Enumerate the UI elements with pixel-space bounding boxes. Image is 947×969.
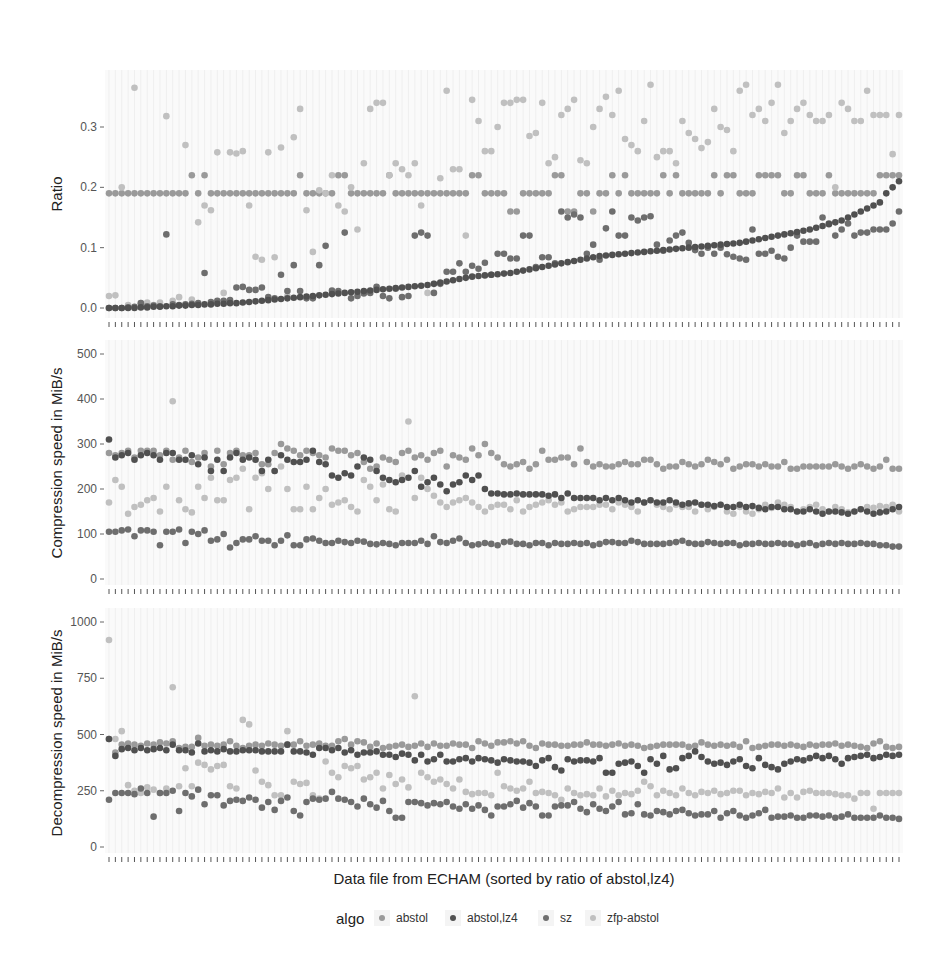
svg-text:750: 750: [77, 671, 97, 685]
legend-items: abstolabstol,lz4szzfp-abstol: [374, 910, 659, 926]
x-axis-label: Data file from ECHAM (sorted by ratio of…: [334, 870, 675, 887]
legend-item: sz: [538, 910, 572, 926]
svg-text:0.1: 0.1: [80, 241, 97, 255]
ratio-y-axis-label: Ratio: [48, 176, 65, 211]
ratio-panel: 0.00.10.20.3 Ratio: [48, 70, 903, 327]
svg-text:100: 100: [77, 527, 97, 541]
svg-text:0.2: 0.2: [80, 180, 97, 194]
svg-text:500: 500: [77, 347, 97, 361]
svg-text:0.3: 0.3: [80, 120, 97, 134]
svg-text:0: 0: [90, 572, 97, 586]
svg-text:0.0: 0.0: [80, 301, 97, 315]
legend: algo abstolabstol,lz4szzfp-abstol: [336, 910, 659, 927]
decompression-y-axis-label: Decompression speed in MiB/s: [48, 630, 65, 837]
figure: 0.00.10.20.3 Ratio 0100200300400500 Comp…: [0, 0, 947, 969]
legend-item: zfp-abstol: [585, 910, 659, 926]
compression-speed-panel: 0100200300400500 Compression speed in Mi…: [48, 340, 903, 594]
svg-text:500: 500: [77, 728, 97, 742]
svg-text:400: 400: [77, 392, 97, 406]
legend-item: abstol: [374, 910, 428, 926]
svg-text:zfp-abstol: zfp-abstol: [607, 911, 659, 925]
compression-y-axis-label: Compression speed in MiB/s: [48, 368, 65, 559]
legend-item: abstol,lz4: [445, 910, 518, 926]
svg-text:250: 250: [77, 784, 97, 798]
decompression-y-ticks: 02505007501000: [70, 615, 104, 854]
decompression-x-ticks: [109, 857, 899, 862]
ratio-y-ticks: 0.00.10.20.3: [80, 120, 104, 315]
svg-text:abstol: abstol: [396, 911, 428, 925]
compression-y-ticks: 0100200300400500: [77, 347, 104, 586]
svg-text:300: 300: [77, 437, 97, 451]
svg-text:sz: sz: [560, 911, 572, 925]
legend-title: algo: [336, 910, 364, 927]
svg-text:200: 200: [77, 482, 97, 496]
compression-x-ticks: [109, 589, 899, 594]
svg-text:0: 0: [90, 840, 97, 854]
svg-text:1000: 1000: [70, 615, 97, 629]
ratio-x-ticks: [109, 322, 899, 327]
svg-text:abstol,lz4: abstol,lz4: [467, 911, 518, 925]
decompression-speed-panel: 02505007501000 Decompression speed in Mi…: [48, 608, 903, 862]
